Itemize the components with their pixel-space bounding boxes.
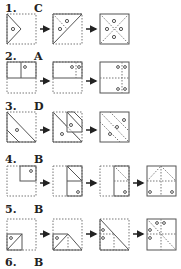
row-1-step-1 — [7, 14, 36, 44]
row-5-step-1 — [7, 219, 36, 250]
row-2-step-2 — [53, 62, 82, 93]
row-2-step-3 — [100, 62, 129, 93]
row-3-step-2 — [53, 112, 82, 142]
row-5-step-3 — [100, 219, 129, 250]
row-1-step-3 — [100, 14, 129, 44]
row-4-step-4 — [147, 166, 176, 196]
row-1-step-2 — [53, 14, 82, 44]
row-5-step-4 — [147, 219, 176, 250]
row-4-step-1 — [7, 166, 36, 196]
row-3-step-3 — [100, 112, 129, 142]
row-4-step-3 — [100, 166, 129, 196]
row-2-step-1 — [7, 62, 36, 93]
row-4-step-2 — [53, 166, 82, 196]
row-5-step-2 — [53, 219, 82, 250]
row-3-step-1 — [7, 112, 36, 142]
